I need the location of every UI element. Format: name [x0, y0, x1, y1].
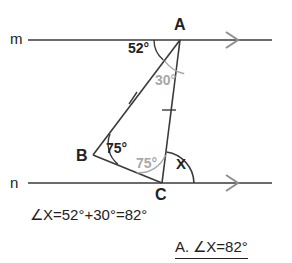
vertex-label-B: B [76, 147, 88, 165]
angle-arc-52 [154, 40, 163, 60]
vertex-label-C: C [155, 186, 167, 204]
line-label-n: n [10, 174, 18, 191]
angle-label-75-at-B: 75° [106, 140, 127, 156]
line-label-m: m [10, 30, 23, 47]
answer-choice: A. ∠X=82° [175, 238, 248, 259]
angle-label-52: 52° [128, 40, 149, 56]
vertex-label-A: A [174, 16, 186, 34]
solution-equation: ∠X=52°+30°=82° [30, 206, 147, 224]
angle-label-X: X [176, 155, 186, 172]
angle-label-75-at-C: 75° [136, 155, 157, 171]
angle-label-30: 30° [155, 72, 176, 88]
